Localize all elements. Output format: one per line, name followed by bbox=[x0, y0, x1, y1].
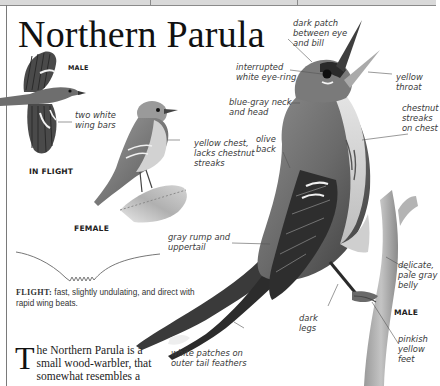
callout-two-white-wing-bars: two white wing bars bbox=[75, 110, 135, 130]
callout-blue-gray-neck: blue-gray neck and head bbox=[229, 97, 299, 117]
body-text-lines: he Northern Parula is a small wood-warbl… bbox=[37, 344, 152, 382]
in-flight-label: IN FLIGHT bbox=[29, 167, 73, 176]
callout-chestnut-streaks: chestnut streaks on chest bbox=[402, 103, 438, 133]
flight-description: FLIGHT: fast, slightly undulating, and d… bbox=[16, 287, 206, 309]
callout-eye-ring: interrupted white eye-ring bbox=[236, 62, 308, 82]
callout-yellow-throat: yellow throat bbox=[396, 72, 436, 92]
page-title: Northern Parula bbox=[18, 12, 265, 56]
callout-pale-gray-belly: delicate, pale gray belly bbox=[398, 260, 440, 290]
callout-olive-back: olive back bbox=[256, 134, 286, 154]
drop-cap: T bbox=[15, 345, 35, 371]
callout-dark-legs: dark legs bbox=[299, 313, 325, 333]
female-label: FEMALE bbox=[74, 224, 109, 233]
callout-white-tail-patches: white patches on outer tail feathers bbox=[171, 348, 261, 368]
body-paragraph: The Northern Parula is a small wood-warb… bbox=[15, 344, 165, 383]
callout-dark-patch: dark patch between eye and bill bbox=[293, 18, 351, 48]
callout-gray-rump: gray rump and uppertail bbox=[168, 232, 238, 252]
callout-pinkish-yellow-feet: pinkish yellow feet bbox=[398, 334, 436, 364]
flight-key: FLIGHT: bbox=[16, 288, 52, 297]
flight-path-diagram bbox=[16, 252, 160, 281]
male-label: MALE bbox=[394, 308, 418, 317]
flight-male-label: MALE bbox=[68, 64, 89, 72]
